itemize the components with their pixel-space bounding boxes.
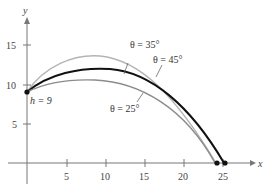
landing-point-a — [214, 160, 219, 165]
landing-point-b — [222, 160, 227, 165]
label-h: h = 9 — [30, 95, 52, 106]
label-theta-45: θ = 45° — [153, 54, 182, 65]
label-theta-35: θ = 35° — [130, 39, 159, 50]
leader-45 — [156, 65, 162, 77]
y-axis-label: y — [22, 5, 28, 16]
x-axis-label: x — [257, 158, 263, 169]
leader-25 — [137, 93, 143, 102]
y-tick-15: 15 — [6, 40, 16, 51]
x-tick-10: 10 — [100, 171, 110, 182]
y-axis-arrow-icon — [24, 17, 30, 24]
x-tick-20: 20 — [178, 171, 188, 182]
y-tick-5: 5 — [12, 119, 17, 130]
y-tick-10: 10 — [6, 80, 16, 91]
curve-25deg — [27, 80, 215, 163]
x-axis-arrow-icon — [250, 160, 256, 166]
x-tick-25: 25 — [218, 171, 228, 182]
launch-point — [24, 89, 29, 94]
label-theta-25: θ = 25° — [110, 103, 139, 114]
trajectory-chart: x y 5 10 15 20 25 5 10 15 θ = 35° θ = 45… — [0, 0, 264, 191]
x-tick-5: 5 — [64, 171, 69, 182]
x-tick-15: 15 — [139, 171, 149, 182]
